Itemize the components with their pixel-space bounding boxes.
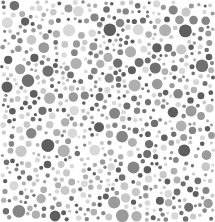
dot	[50, 84, 54, 88]
dot	[103, 166, 106, 169]
dot	[166, 212, 169, 215]
dot	[121, 110, 126, 115]
dot	[145, 200, 151, 206]
dot	[153, 185, 157, 189]
dot	[9, 108, 16, 115]
dot	[112, 16, 116, 20]
dot	[142, 67, 148, 73]
dot	[67, 18, 70, 21]
dot	[1, 154, 4, 157]
dot	[158, 118, 162, 122]
dot	[72, 122, 77, 127]
dot	[101, 147, 104, 150]
dot	[132, 188, 140, 196]
dot	[164, 122, 167, 125]
dot	[201, 196, 205, 200]
dot	[19, 200, 22, 203]
dot	[199, 27, 204, 32]
dot	[22, 181, 26, 185]
dot	[208, 4, 212, 8]
dot	[30, 90, 38, 98]
dot	[3, 39, 6, 42]
dot	[191, 164, 194, 167]
dot	[32, 211, 40, 219]
dot	[23, 29, 27, 33]
dot	[55, 70, 59, 74]
dot	[104, 87, 110, 93]
dot	[113, 58, 122, 67]
dot	[119, 162, 124, 167]
dot	[32, 152, 35, 155]
dot	[145, 218, 149, 222]
dot	[156, 135, 159, 138]
dot	[165, 179, 171, 185]
dot	[164, 163, 168, 167]
dot	[193, 58, 196, 61]
dot	[139, 196, 142, 199]
dot	[25, 195, 29, 199]
dot	[173, 26, 178, 31]
dot	[131, 211, 141, 221]
dot	[98, 203, 102, 207]
dot	[98, 31, 101, 34]
dot	[172, 60, 176, 64]
dot	[175, 16, 184, 25]
dot	[37, 81, 40, 84]
dot	[58, 161, 65, 168]
dot	[0, 122, 6, 128]
dot	[150, 162, 153, 165]
dot	[75, 204, 78, 207]
dot	[149, 116, 152, 119]
dot	[131, 10, 134, 13]
dot	[115, 179, 118, 182]
dot	[176, 121, 187, 132]
dot	[16, 126, 23, 133]
dot	[36, 1, 40, 5]
dot	[145, 99, 151, 105]
dot	[146, 11, 149, 14]
dot	[19, 114, 24, 119]
dot	[172, 205, 176, 209]
dot	[67, 114, 70, 117]
dot	[123, 84, 127, 88]
dot	[104, 1, 108, 5]
dot	[173, 89, 183, 99]
dot	[75, 151, 80, 156]
dot	[90, 94, 93, 97]
dot	[153, 149, 157, 153]
dot	[68, 156, 72, 160]
dot	[45, 173, 50, 178]
dot	[13, 205, 26, 218]
dot	[65, 217, 69, 221]
dot	[70, 106, 79, 115]
dot	[103, 6, 110, 13]
dot	[70, 117, 74, 121]
dot	[133, 128, 139, 134]
dot	[96, 133, 99, 136]
dot	[48, 19, 54, 25]
dot	[208, 90, 213, 95]
dot	[58, 145, 70, 157]
dot	[126, 19, 130, 23]
dot	[73, 6, 84, 17]
dot	[29, 15, 33, 19]
dot	[94, 122, 104, 132]
dot	[143, 193, 148, 198]
dot	[2, 189, 7, 194]
dot	[25, 162, 31, 168]
dot	[88, 74, 93, 79]
dot	[15, 46, 22, 53]
dot	[178, 199, 181, 202]
dot	[197, 3, 200, 6]
dot	[182, 75, 185, 78]
dot	[125, 24, 131, 30]
dot	[36, 143, 40, 147]
dot	[168, 107, 178, 117]
dot	[80, 192, 86, 198]
dot	[159, 24, 171, 36]
dot	[103, 153, 106, 156]
dot	[105, 46, 109, 50]
dot	[4, 160, 10, 166]
dot	[178, 144, 190, 156]
dot	[171, 0, 175, 4]
